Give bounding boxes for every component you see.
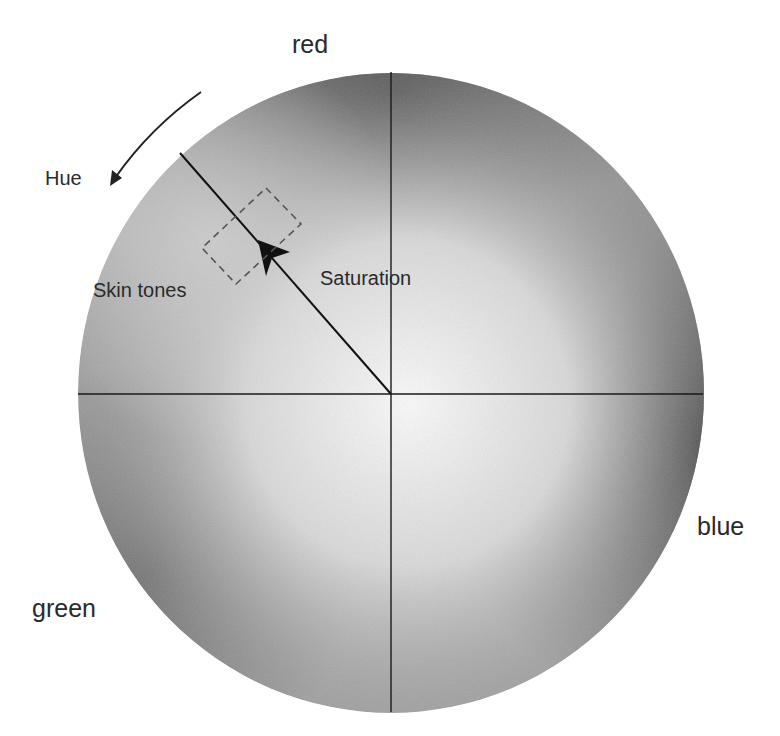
label-green: green xyxy=(32,596,96,621)
label-hue: Hue xyxy=(45,168,82,188)
wheel-surface xyxy=(70,60,720,720)
label-red: red xyxy=(292,32,328,57)
label-blue: blue xyxy=(697,514,744,539)
color-wheel-diagram xyxy=(0,0,780,736)
label-saturation: Saturation xyxy=(320,268,411,288)
label-skin-tones: Skin tones xyxy=(93,280,186,300)
